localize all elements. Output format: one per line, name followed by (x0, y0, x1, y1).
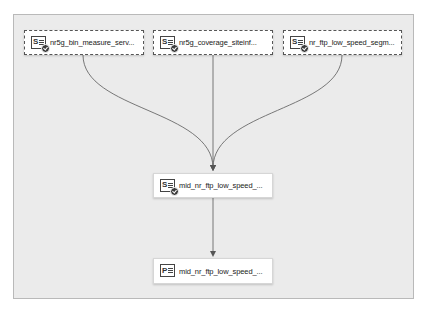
node-label: mid_nr_ftp_low_speed_... (179, 181, 263, 190)
lineage-canvas[interactable] (13, 14, 414, 299)
table-s-icon: S (31, 36, 47, 50)
table-s-icon: S (290, 36, 306, 50)
node-nr5g-coverage-siteinf[interactable]: S nr5g_coverage_siteinf... (153, 30, 273, 55)
node-label: nr_ftp_low_speed_segm... (309, 38, 395, 47)
table-s-icon: S (160, 36, 176, 50)
table-p-icon: P (160, 264, 176, 278)
check-badge-icon (41, 44, 50, 53)
node-label: nr5g_bin_measure_serv... (50, 38, 134, 47)
node-label: nr5g_coverage_siteinf... (179, 38, 257, 47)
node-nr-ftp-low-speed-segm[interactable]: S nr_ftp_low_speed_segm... (283, 30, 402, 55)
check-badge-icon (170, 187, 179, 196)
node-mid-nr-ftp-low-speed[interactable]: S mid_nr_ftp_low_speed_... (153, 173, 273, 198)
table-s-icon: S (160, 179, 176, 193)
check-badge-icon (300, 44, 309, 53)
node-label: mid_nr_ftp_low_speed_... (179, 267, 263, 276)
node-nr5g-bin-measure[interactable]: S nr5g_bin_measure_serv... (24, 30, 144, 55)
check-badge-icon (170, 44, 179, 53)
node-mid-nr-ftp-low-speed-output[interactable]: P mid_nr_ftp_low_speed_... (153, 258, 273, 284)
